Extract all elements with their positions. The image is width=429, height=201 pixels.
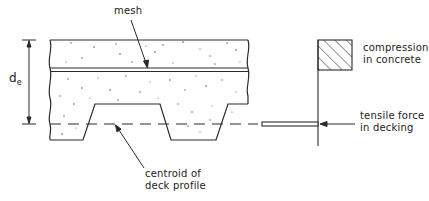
- deck-profile: [50, 104, 248, 140]
- centroid-leader: [116, 125, 145, 168]
- tensile-line-1: tensile force: [360, 110, 424, 122]
- concrete-slab: [49, 40, 249, 140]
- compression-line-1: compression: [363, 42, 429, 54]
- mesh-label: mesh: [114, 5, 142, 17]
- effective-depth-label: de: [9, 71, 22, 87]
- composite-slab-diagram: [0, 0, 429, 201]
- stress-block: [262, 40, 352, 146]
- centroid-line-2: deck profile: [145, 180, 206, 192]
- centroid-line-1: centroid of: [145, 168, 206, 180]
- tensile-force-bar: [262, 122, 318, 126]
- mesh-leader: [131, 20, 149, 68]
- mesh-reinforcement: [50, 68, 248, 72]
- tensile-line-2: in decking: [360, 122, 424, 134]
- concrete-aggregate: [59, 41, 240, 135]
- tensile-leader: [320, 122, 355, 127]
- compression-line-2: in concrete: [363, 54, 429, 66]
- depth-symbol: d: [9, 71, 17, 85]
- compression-block: [318, 40, 352, 70]
- effective-depth-dimension: [22, 40, 36, 124]
- tensile-label: tensile force in decking: [360, 110, 424, 134]
- centroid-label: centroid of deck profile: [145, 168, 206, 192]
- depth-subscript: e: [17, 78, 22, 87]
- compression-label: compression in concrete: [363, 42, 429, 66]
